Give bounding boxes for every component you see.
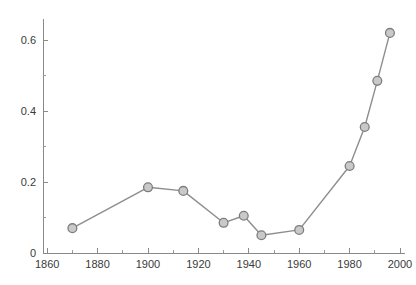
x-tick-label: 1900 (136, 258, 160, 270)
line-chart: 18601880190019201940196019802000 00.20.4… (0, 0, 416, 285)
data-point-marker (295, 226, 304, 235)
x-axis-tick-labels: 18601880190019201940196019802000 (35, 258, 412, 270)
chart-container: 18601880190019201940196019802000 00.20.4… (0, 0, 416, 285)
y-axis-tick-labels: 00.20.40.6 (21, 34, 36, 259)
y-tick-label: 0.4 (21, 105, 36, 117)
x-tick-label: 1860 (35, 258, 59, 270)
x-tick-label: 1960 (287, 258, 311, 270)
series-polyline (72, 33, 390, 235)
x-tick-label: 1980 (337, 258, 361, 270)
x-tick-label: 2000 (388, 258, 412, 270)
x-tick-label: 1920 (186, 258, 210, 270)
x-axis-ticks (47, 248, 400, 253)
y-axis-ticks (43, 40, 48, 253)
y-tick-label: 0.2 (21, 176, 36, 188)
data-point-marker (373, 76, 382, 85)
data-point-marker (257, 231, 266, 240)
x-tick-label: 1880 (85, 258, 109, 270)
data-point-markers (68, 29, 394, 240)
data-point-marker (345, 162, 354, 171)
y-tick-label: 0.6 (21, 34, 36, 46)
data-point-marker (386, 29, 395, 38)
data-point-marker (360, 123, 369, 132)
data-point-marker (144, 183, 153, 192)
data-point-marker (239, 211, 248, 220)
x-tick-label: 1940 (237, 258, 261, 270)
data-series-line (72, 33, 390, 235)
data-point-marker (179, 186, 188, 195)
data-point-marker (68, 224, 77, 233)
data-point-marker (219, 218, 228, 227)
y-tick-label: 0 (30, 247, 36, 259)
